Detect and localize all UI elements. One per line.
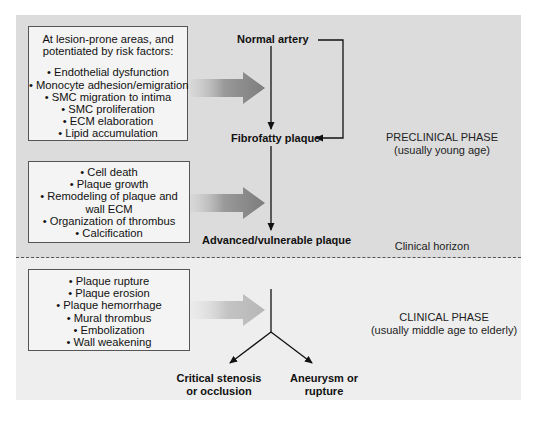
box3-item: • Plaque hemorrhage bbox=[29, 299, 189, 311]
box1-intro-line1: At lesion-prone areas, and bbox=[29, 33, 187, 45]
box1-intro-line2: potentiated by risk factors: bbox=[29, 45, 187, 57]
progression-events-box: • Cell death • Plaque growth • Remodelin… bbox=[28, 161, 190, 243]
box2-item: • Plaque growth bbox=[29, 178, 189, 190]
box1-item: • SMC migration to intima bbox=[29, 91, 187, 103]
box2-item: • Remodeling of plaque and bbox=[29, 190, 189, 202]
box2-item: wall ECM bbox=[29, 203, 189, 215]
box3-item: • Mural thrombus bbox=[29, 312, 189, 324]
box3-item: • Plaque rupture bbox=[29, 275, 189, 287]
preclinical-title: PRECLINICAL PHASE bbox=[382, 131, 502, 144]
fibrofatty-plaque-label: Fibrofatty plaque bbox=[231, 132, 320, 145]
clinical-subtitle: (usually middle age to elderly) bbox=[366, 324, 522, 337]
preclinical-subtitle: (usually young age) bbox=[382, 144, 502, 157]
box1-item: • ECM elaboration bbox=[29, 115, 187, 127]
box1-item: • Lipid accumulation bbox=[29, 127, 187, 139]
process-arrow-3 bbox=[190, 294, 265, 326]
advanced-plaque-label: Advanced/vulnerable plaque bbox=[202, 234, 351, 247]
early-events-box: At lesion-prone areas, and potentiated b… bbox=[28, 26, 188, 141]
box1-item: • SMC proliferation bbox=[29, 103, 187, 115]
box2-item: • Calcification bbox=[29, 227, 189, 239]
process-arrow-2 bbox=[190, 187, 265, 219]
aneurysm-line1: Aneurysm or bbox=[286, 372, 362, 385]
box2-item: • Cell death bbox=[29, 166, 189, 178]
clinical-events-box: • Plaque rupture • Plaque erosion • Plaq… bbox=[28, 269, 190, 351]
box3-item: • Plaque erosion bbox=[29, 287, 189, 299]
normal-artery-label: Normal artery bbox=[237, 33, 309, 46]
box2-item: • Organization of thrombus bbox=[29, 215, 189, 227]
clinical-phase-label: CLINICAL PHASE (usually middle age to el… bbox=[366, 311, 522, 337]
critical-stenosis-line2: or occlusion bbox=[174, 385, 264, 398]
box3-item: • Embolization bbox=[29, 324, 189, 336]
critical-stenosis-line1: Critical stenosis bbox=[174, 372, 264, 385]
box1-item: • Monocyte adhesion/emigration bbox=[29, 79, 187, 91]
aneurysm-line2: rupture bbox=[286, 385, 362, 398]
box3-item: • Wall weakening bbox=[29, 336, 189, 348]
box1-item: • Endothelial dysfunction bbox=[29, 66, 187, 78]
preclinical-phase-label: PRECLINICAL PHASE (usually young age) bbox=[382, 131, 502, 157]
process-arrow-1 bbox=[190, 72, 265, 104]
clinical-title: CLINICAL PHASE bbox=[366, 311, 522, 324]
critical-stenosis-label: Critical stenosis or occlusion bbox=[174, 372, 264, 397]
aneurysm-label: Aneurysm or rupture bbox=[286, 372, 362, 397]
clinical-horizon-label: Clinical horizon bbox=[382, 240, 482, 253]
